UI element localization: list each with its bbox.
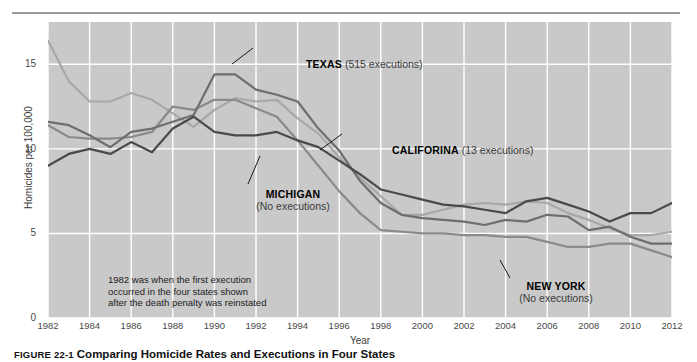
x-tick-2008: 2008 <box>578 320 599 331</box>
x-tick-1992: 1992 <box>245 320 266 331</box>
y-tick-0: 0 <box>2 313 36 323</box>
new-york-leader <box>500 260 510 278</box>
x-tick-2000: 2000 <box>412 320 433 331</box>
texas-leader <box>232 48 253 64</box>
y-axis-title: Homicides per 100,000 <box>23 78 34 238</box>
x-tick-1986: 1986 <box>121 320 142 331</box>
series-label-michigan: MICHIGAN (No executions) <box>234 188 352 212</box>
series-label-california-detail: (13 executions) <box>462 144 534 156</box>
figure-caption-text: Comparing Homicide Rates and Executions … <box>77 348 395 360</box>
x-axis-tick-labels: 1982198419861988199019921994199619982000… <box>48 320 672 334</box>
series-label-michigan-detail: (No executions) <box>256 200 330 212</box>
plot-area: TEXAS (515 executions) CALIFORINA (13 ex… <box>48 22 672 318</box>
x-tick-1998: 1998 <box>370 320 391 331</box>
top-rule-divider <box>12 12 680 14</box>
california-leader <box>320 134 342 150</box>
x-tick-2002: 2002 <box>453 320 474 331</box>
x-tick-1996: 1996 <box>329 320 350 331</box>
x-tick-2010: 2010 <box>620 320 641 331</box>
x-tick-2004: 2004 <box>495 320 516 331</box>
series-label-texas-name: TEXAS <box>306 58 342 70</box>
x-tick-1982: 1982 <box>37 320 58 331</box>
x-tick-2006: 2006 <box>537 320 558 331</box>
series-label-texas-detail: (515 executions) <box>345 58 423 70</box>
series-label-california-name: CALIFORINA <box>392 144 459 156</box>
x-tick-1988: 1988 <box>162 320 183 331</box>
michigan-leader <box>248 156 260 184</box>
series-label-new-york: NEW YORK (No executions) <box>500 280 612 304</box>
series-label-california: CALIFORINA (13 executions) <box>392 144 533 156</box>
figure-caption: FIGURE 22-1 Comparing Homicide Rates and… <box>14 348 680 361</box>
x-tick-1994: 1994 <box>287 320 308 331</box>
x-tick-1984: 1984 <box>79 320 100 331</box>
chart-note: 1982 was when the first execution occurr… <box>108 274 266 309</box>
series-label-michigan-name: MICHIGAN <box>266 188 321 200</box>
figure-container: 0 5 10 15 Homicides per 100,000 TEXAS (5… <box>0 0 697 362</box>
figure-caption-number: FIGURE 22-1 <box>14 349 74 360</box>
x-tick-1990: 1990 <box>204 320 225 331</box>
series-label-new-york-name: NEW YORK <box>526 280 585 292</box>
y-tick-15: 15 <box>2 59 36 69</box>
x-tick-2012: 2012 <box>661 320 682 331</box>
x-axis-title: Year <box>48 335 672 346</box>
series-label-texas: TEXAS (515 executions) <box>306 58 423 70</box>
series-label-new-york-detail: (No executions) <box>519 292 593 304</box>
